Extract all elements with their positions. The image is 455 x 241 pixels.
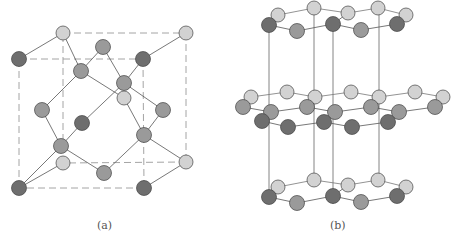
atom-light [307,1,321,15]
bond-line [19,146,61,188]
atom-medium [156,103,171,118]
atom-dark [390,189,405,204]
atom-light [117,91,131,105]
atom-dark [326,189,341,204]
atom-dark [255,114,270,129]
atom-medium [96,40,111,55]
atom-medium [354,23,369,38]
atom-dark [390,17,405,32]
panel-b-label: (b) [330,219,346,232]
atom-dark [137,181,152,196]
atom-dark [12,181,27,196]
atom-medium [74,64,89,79]
atom-medium [97,166,112,181]
atom-light [341,6,355,20]
atom-light [408,85,422,99]
atom-medium [236,100,251,115]
atom-dark [381,115,396,130]
atom-medium [137,128,152,143]
crystal-structure-figure [0,0,455,241]
atom-medium [428,100,443,115]
atom-light [371,1,385,15]
cell-edge [63,162,186,163]
atom-medium [54,139,69,154]
atom-medium [290,196,305,211]
atom-medium [117,76,132,91]
atom-light [280,85,294,99]
atom-light [179,155,193,169]
atom-medium [35,103,50,118]
atom-medium [354,195,369,210]
atom-dark [326,17,341,32]
atom-medium [300,100,315,115]
cell-edge [143,59,144,188]
bond-line [104,135,144,173]
atom-dark [75,116,90,131]
atom-dark [12,52,27,67]
atom-dark [262,190,277,205]
atom-dark [262,18,277,33]
atom-light [371,173,385,187]
atom-dark [281,120,296,135]
atom-light [344,85,358,99]
atom-medium [290,24,305,39]
atom-dark [317,115,332,130]
atom-dark [345,120,360,135]
panel-a-label: (a) [97,219,112,232]
atom-dark [136,52,151,67]
atom-light [341,178,355,192]
atom-light [307,173,321,187]
atom-light [56,26,70,40]
atom-light [179,26,193,40]
atom-medium [364,100,379,115]
bond-line [82,83,124,123]
bond-line [42,71,81,110]
atom-light [56,156,70,170]
